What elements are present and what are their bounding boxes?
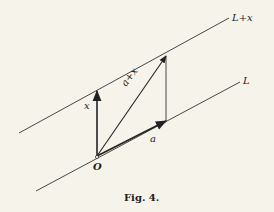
vector-diagram: L+x L x a a+x O Fig. 4. <box>0 0 274 212</box>
line-l-label: L <box>242 75 250 86</box>
figure-caption: Fig. 4. <box>124 192 159 203</box>
line-l-plus-x-label: L+x <box>231 12 253 23</box>
origin-point <box>95 155 98 158</box>
line-l <box>36 82 240 191</box>
vector-a-label: a <box>150 133 156 144</box>
vector-x-label: x <box>84 100 90 111</box>
origin-label: O <box>93 161 102 172</box>
